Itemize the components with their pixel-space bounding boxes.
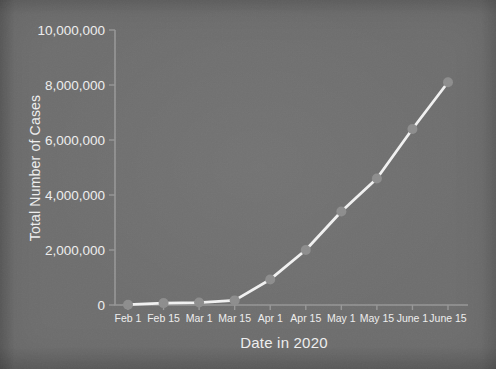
y-axis-title: Total Number of Cases xyxy=(27,95,43,242)
y-tick-label: 0 xyxy=(97,298,105,313)
data-point-marker xyxy=(123,300,133,310)
data-point-marker xyxy=(301,245,311,255)
data-point-marker xyxy=(336,207,346,217)
data-point-marker xyxy=(194,298,204,308)
data-point-marker xyxy=(159,298,169,308)
y-tick-label: 2,000,000 xyxy=(45,243,105,258)
slide-background: 02,000,0004,000,0006,000,0008,000,00010,… xyxy=(0,0,496,369)
x-tick-label: Apr 1 xyxy=(258,312,283,324)
x-tick-label: June 15 xyxy=(429,312,467,324)
data-point-marker xyxy=(372,174,382,184)
x-tick-label: Mar 1 xyxy=(186,312,213,324)
x-tick-label: Mar 15 xyxy=(218,312,251,324)
x-tick-label: May 15 xyxy=(360,312,395,324)
x-tick-label: June 1 xyxy=(397,312,429,324)
x-tick-label: May 1 xyxy=(327,312,356,324)
axes-lines xyxy=(115,30,468,305)
data-point-marker xyxy=(230,295,240,305)
data-point-marker xyxy=(407,124,417,134)
line-chart: 02,000,0004,000,0006,000,0008,000,00010,… xyxy=(0,0,496,369)
data-point-marker xyxy=(265,274,275,284)
cases-trend-line xyxy=(128,82,448,304)
data-point-marker xyxy=(443,77,453,87)
x-tick-label: Feb 15 xyxy=(147,312,180,324)
y-tick-label: 10,000,000 xyxy=(37,23,105,38)
y-tick-label: 8,000,000 xyxy=(45,78,105,93)
x-tick-label: Apr 15 xyxy=(290,312,321,324)
x-tick-label: Feb 1 xyxy=(115,312,142,324)
y-tick-label: 6,000,000 xyxy=(45,133,105,148)
x-axis-title: Date in 2020 xyxy=(240,334,327,351)
y-tick-label: 4,000,000 xyxy=(45,188,105,203)
